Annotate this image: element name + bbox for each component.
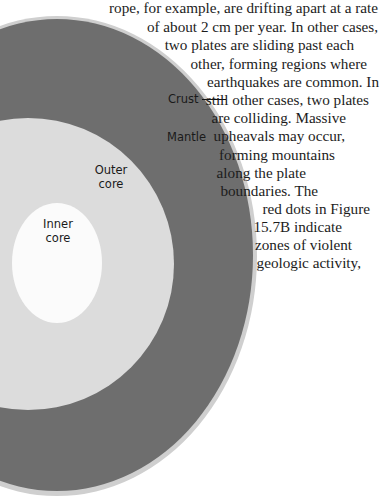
crust-label: Crust [168,92,199,106]
text-line: two plates are sliding past each [165,35,354,54]
inner-core-label-line1: Inner [33,217,83,231]
inner-core-label-line2: core [33,231,83,245]
text-line: other, forming regions where [190,54,367,73]
outer-core-label: Outer core [86,163,136,191]
text-line: red dots in Figure [262,199,370,218]
text-line: of about 2 cm per year. In other cases, [147,17,378,36]
text-line: forming mountains [219,145,335,164]
mantle-label: Mantle [167,130,206,144]
inner-core-label: Inner core [33,217,83,245]
outer-core-label-line1: Outer [86,163,136,177]
text-line: are colliding. Massive [211,108,346,127]
text-line: rope, for example, are drifting apart at… [109,0,378,17]
text-line: along the plate [217,163,306,182]
text-line: still other cases, two plates [206,90,369,109]
text-line: geologic activity, [257,253,361,272]
text-line: earthquakes are common. In [207,72,379,91]
outer-core-label-line2: core [86,177,136,191]
text-line: upheavals may occur, [214,126,345,145]
text-line: boundaries. The [220,181,318,200]
text-line: zones of violent [255,235,352,254]
text-line: 15.7B indicate [253,217,342,236]
